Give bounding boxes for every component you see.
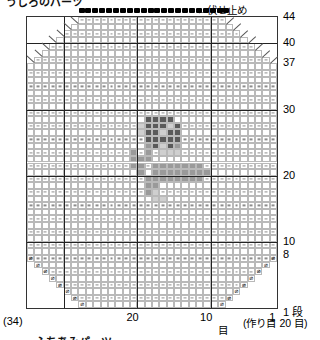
chart-cell [167, 229, 174, 236]
chart-cell [262, 189, 269, 196]
chart-cell [93, 50, 100, 57]
chart-cell [64, 83, 71, 90]
purl-dash-icon [176, 112, 179, 113]
purl-dash-icon [29, 205, 32, 206]
chart-cell [42, 70, 49, 77]
purl-dash-icon [59, 245, 62, 246]
purl-dash-icon [169, 245, 172, 246]
purl-dash-icon [220, 284, 223, 285]
purl-dash-icon [154, 112, 157, 113]
chart-cell [130, 229, 137, 236]
purl-dash-icon [139, 178, 142, 179]
chart-cell [152, 169, 159, 176]
chart-cell [34, 189, 41, 196]
chart-cell [27, 222, 34, 229]
chart-cell [196, 182, 203, 189]
chart-cell [203, 235, 210, 242]
chart-cell [233, 83, 240, 90]
chart-cell [93, 136, 100, 143]
chart-cell [248, 229, 255, 236]
chart-cell [196, 235, 203, 242]
chart-cell [34, 202, 41, 209]
purl-dash-icon [37, 152, 40, 153]
purl-dash-icon [257, 258, 260, 259]
chart-cell [130, 143, 137, 150]
purl-dash-icon [154, 297, 157, 298]
chart-cell [108, 24, 115, 31]
purl-dash-icon [51, 218, 54, 219]
chart-cell [203, 156, 210, 163]
chart-cell [137, 149, 144, 156]
purl-dash-icon [51, 245, 54, 246]
chart-cell [203, 248, 210, 255]
purl-dash-icon [154, 33, 157, 34]
chart-cell [233, 129, 240, 136]
chart-cell [167, 129, 174, 136]
chart-cell [123, 275, 130, 282]
chart-cell [86, 248, 93, 255]
chart-cell [270, 70, 277, 77]
chart-cell [159, 229, 166, 236]
chart-cell [203, 143, 210, 150]
chart-cell [211, 24, 218, 31]
purl-dash-icon [213, 33, 216, 34]
chart-cell [270, 103, 277, 110]
chart-cell [93, 295, 100, 302]
purl-dash-icon [242, 152, 245, 153]
chart-cell [115, 288, 122, 295]
chart-cell [42, 163, 49, 170]
chart-cell [137, 123, 144, 130]
purl-dash-icon [117, 297, 120, 298]
purl-dash-icon [73, 271, 76, 272]
chart-cell [86, 129, 93, 136]
chart-cell [34, 103, 41, 110]
chart-cell [174, 301, 181, 308]
chart-cell [108, 63, 115, 70]
purl-dash-icon [132, 245, 135, 246]
chart-cell [189, 17, 196, 24]
purl-dash-icon [81, 33, 84, 34]
chart-cell [167, 262, 174, 269]
purl-dash-icon [95, 245, 98, 246]
chart-cell [240, 90, 247, 97]
chart-cell [115, 149, 122, 156]
purl-dash-icon [29, 245, 32, 246]
purl-dash-icon [147, 73, 150, 74]
major-gridline-horizontal [27, 110, 277, 111]
purl-dash-icon [264, 73, 267, 74]
purl-dash-icon [103, 165, 106, 166]
purl-dash-icon [37, 73, 40, 74]
chart-cell [233, 268, 240, 275]
chart-cell [56, 215, 63, 222]
chart-cell [42, 255, 49, 262]
chart-cell [137, 235, 144, 242]
chart-cell [203, 262, 210, 269]
chart-cell [86, 123, 93, 130]
chart-cell [49, 222, 56, 229]
chart-cell [78, 96, 85, 103]
chart-cell [115, 268, 122, 275]
purl-dash-icon [147, 258, 150, 259]
chart-cell [270, 163, 277, 170]
chart-cell [233, 30, 240, 37]
chart-cell [115, 37, 122, 44]
chart-cell [42, 123, 49, 130]
purl-dash-icon [242, 231, 245, 232]
chart-cell [71, 202, 78, 209]
chart-cell [34, 90, 41, 97]
chart-cell [270, 229, 277, 236]
chart-cell [137, 63, 144, 70]
purl-dash-icon [44, 205, 47, 206]
chart-cell [71, 116, 78, 123]
purl-dash-icon [220, 218, 223, 219]
purl-dash-icon [250, 46, 253, 47]
chart-cell [42, 156, 49, 163]
purl-dash-icon [257, 178, 260, 179]
purl-dash-icon [95, 192, 98, 193]
purl-dash-icon [66, 231, 69, 232]
chart-cell [137, 295, 144, 302]
chart-cell [262, 123, 269, 130]
chart-cell [137, 229, 144, 236]
chart-cell [203, 50, 210, 57]
chart-cell [248, 189, 255, 196]
